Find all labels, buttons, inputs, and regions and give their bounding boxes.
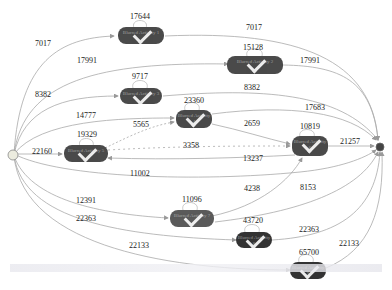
self-loop-label: 11096 bbox=[182, 196, 202, 204]
edge-label: 17991 bbox=[77, 57, 97, 65]
edge-start-n7 bbox=[14, 156, 168, 218]
self-loop-label: 17644 bbox=[130, 13, 150, 21]
activity-node-6[interactable]: Blurred Activity 6 bbox=[292, 136, 328, 156]
edge-label: 13237 bbox=[243, 155, 263, 163]
self-loop-label: 65700 bbox=[299, 249, 319, 257]
activity-node-4[interactable]: Blurred Activity 4 bbox=[176, 110, 212, 128]
activity-node-8[interactable]: Blurred Activity 8 bbox=[236, 232, 272, 248]
edge-label: 3358 bbox=[183, 142, 199, 150]
start-node bbox=[8, 150, 18, 160]
edge-start-n1 bbox=[14, 36, 114, 154]
self-loop-label: 19329 bbox=[77, 131, 97, 139]
edge-label: 12391 bbox=[76, 197, 96, 205]
edge-label: 14777 bbox=[76, 112, 96, 120]
edge-label: 17991 bbox=[300, 57, 320, 65]
edge-label: 22133 bbox=[129, 242, 149, 250]
edge-label: 2659 bbox=[244, 120, 260, 128]
edge-n2-end bbox=[283, 65, 378, 140]
edge-n5-n6 bbox=[108, 146, 290, 150]
activity-node-7[interactable]: Blurred Activity 7 bbox=[170, 210, 214, 227]
edge-label: 7017 bbox=[35, 40, 51, 48]
edge-label: 22160 bbox=[32, 148, 52, 156]
edge-label: 5565 bbox=[133, 121, 149, 129]
edge-label: 22363 bbox=[76, 215, 96, 223]
edge-start-n9 bbox=[14, 156, 290, 270]
edge-label: 22133 bbox=[339, 240, 359, 248]
edge-label: 8153 bbox=[300, 184, 316, 192]
activity-node-2[interactable]: Blurred Activity 2 bbox=[227, 56, 283, 74]
edge-label: 4238 bbox=[244, 185, 260, 193]
edge-start-n8 bbox=[14, 156, 236, 240]
edge-label: 21257 bbox=[340, 138, 360, 146]
edge-label: 17683 bbox=[305, 104, 325, 112]
self-loop-label: 9717 bbox=[132, 73, 148, 81]
edge-label: 11002 bbox=[130, 170, 150, 178]
edge-label: 7017 bbox=[246, 24, 262, 32]
end-node bbox=[376, 143, 384, 151]
self-loop-label: 10819 bbox=[300, 123, 320, 131]
self-loop-label: 43720 bbox=[243, 217, 263, 225]
activity-node-5[interactable]: Blurred Activity 5 bbox=[64, 145, 108, 162]
edge-label: 8382 bbox=[244, 84, 260, 92]
edge-n6-n5 bbox=[108, 155, 295, 159]
edge-label: 8382 bbox=[35, 91, 51, 99]
activity-node-1[interactable]: Blurred Activity 1 bbox=[118, 27, 164, 44]
edge-n7-end bbox=[215, 152, 378, 222]
self-loop-label: 15128 bbox=[243, 44, 263, 52]
edge-label: 22363 bbox=[299, 226, 319, 234]
activity-node-3[interactable]: Blurred Activity 3 bbox=[120, 88, 162, 104]
self-loop-label: 23360 bbox=[184, 97, 204, 105]
edge-n9-end bbox=[326, 152, 382, 268]
blurred-overlay bbox=[10, 264, 382, 272]
